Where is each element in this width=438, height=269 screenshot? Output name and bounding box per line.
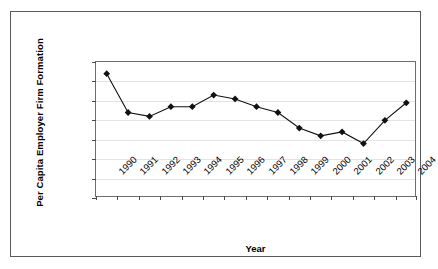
data-point-marker — [146, 113, 153, 120]
data-point-marker — [210, 92, 217, 99]
data-series-line — [96, 62, 417, 198]
data-point-marker — [189, 103, 196, 110]
data-point-marker — [125, 109, 132, 116]
x-axis-title: Year — [95, 243, 416, 254]
data-point-marker — [168, 103, 175, 110]
data-point-marker — [317, 132, 324, 139]
data-point-marker — [103, 70, 110, 77]
y-axis-title: Per Capita Employer Firm Formation — [34, 33, 45, 213]
data-point-marker — [253, 103, 260, 110]
data-point-marker — [232, 96, 239, 103]
data-point-marker — [339, 129, 346, 136]
x-tick-label: 2004 — [415, 154, 438, 177]
plot-area: 0.00240.00230.00220.00210.00200.00190.00… — [95, 61, 416, 197]
chart-outer-frame: Per Capita Employer Firm Formation 0.002… — [10, 11, 421, 257]
